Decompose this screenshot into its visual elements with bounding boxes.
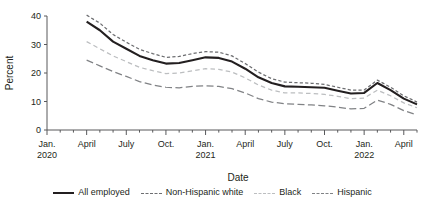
x-axis: Jan.2020AprilJulyOct.Jan.2021AprilJulyOc… (37, 130, 417, 160)
x-tick-label: Jan. (356, 139, 373, 149)
y-tick-label: 20 (31, 68, 41, 78)
legend-label: Non-Hispanic white (166, 188, 244, 197)
series-line-black (87, 42, 417, 108)
legend-label: Black (279, 188, 301, 197)
x-axis-title: Date (227, 172, 249, 183)
legend-swatch-icon (254, 193, 275, 194)
legend-label: All employed (78, 188, 130, 197)
legend-item-non-hispanic-white[interactable]: Non-Hispanic white (141, 188, 244, 197)
x-tick-label: July (277, 139, 294, 149)
x-tick-label: April (236, 139, 254, 149)
y-tick-label: 30 (31, 40, 41, 50)
y-axis-title: Percent (4, 56, 15, 91)
legend-item-hispanic[interactable]: Hispanic (312, 188, 372, 197)
x-tick-label: Jan. (38, 139, 55, 149)
x-tick-label: Oct. (316, 139, 333, 149)
series-lines (87, 15, 417, 115)
line-chart-plot: 010203040 Jan.2020AprilJulyOct.Jan.2021A… (0, 0, 425, 188)
y-tick-label: 10 (31, 97, 41, 107)
x-tick-label: Oct. (158, 139, 175, 149)
x-tick-label: April (395, 139, 413, 149)
x-tick-label: April (78, 139, 96, 149)
legend-swatch-icon (141, 193, 162, 194)
x-tick-label: Jan. (197, 139, 214, 149)
legend-item-all-employed[interactable]: All employed (53, 188, 130, 197)
series-line-all-employed (87, 22, 417, 105)
y-axis: 010203040 (31, 11, 47, 135)
y-tick-label: 40 (31, 11, 41, 21)
x-tick-year-label: 2020 (37, 150, 57, 160)
x-tick-label: July (118, 139, 135, 149)
legend-label: Hispanic (337, 188, 372, 197)
x-tick-year-label: 2022 (354, 150, 374, 160)
legend-swatch-icon (312, 193, 333, 194)
chart-figure: 010203040 Jan.2020AprilJulyOct.Jan.2021A… (0, 0, 425, 212)
y-tick-label: 0 (36, 125, 41, 135)
chart-legend: All employedNon-Hispanic whiteBlackHispa… (0, 188, 425, 197)
series-line-non-hispanic-white (87, 15, 417, 102)
legend-item-black[interactable]: Black (254, 188, 301, 197)
legend-swatch-icon (53, 192, 74, 194)
x-tick-year-label: 2021 (196, 150, 216, 160)
